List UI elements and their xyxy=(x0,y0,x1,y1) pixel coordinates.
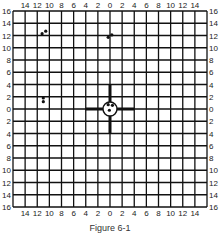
shot-group xyxy=(42,96,45,103)
top-axis-label: 6 xyxy=(71,1,76,10)
right-axis-label: 12 xyxy=(209,32,218,41)
right-axis-label: 8 xyxy=(209,154,214,163)
bottom-axis-label: 2 xyxy=(96,209,101,218)
top-axis-label: 4 xyxy=(132,1,137,10)
shot-hole-dot xyxy=(110,33,113,36)
bottom-axis-label: 12 xyxy=(33,209,42,218)
left-axis-label: 10 xyxy=(2,166,11,175)
right-axis-label: 10 xyxy=(209,44,218,53)
bottom-axis-label: 8 xyxy=(59,209,64,218)
bottom-axis-label: 0 xyxy=(108,209,113,218)
top-axis-label: 14 xyxy=(21,1,30,10)
shot-hole-dot xyxy=(107,103,110,106)
left-axis-label: 6 xyxy=(7,142,12,151)
bottom-axis-label: 8 xyxy=(156,209,161,218)
right-axis-label: 2 xyxy=(209,93,214,102)
left-axis-label: 2 xyxy=(7,117,12,126)
bottom-axis-label: 14 xyxy=(190,209,199,218)
left-axis-label: 4 xyxy=(7,81,12,90)
left-axis-label: 2 xyxy=(7,93,12,102)
bottom-axis-label: 4 xyxy=(84,209,89,218)
left-axis-label: 0 xyxy=(7,105,12,114)
top-axis-label: 10 xyxy=(166,1,175,10)
right-axis-label: 8 xyxy=(209,56,214,65)
shot-hole-dot xyxy=(111,104,114,107)
top-axis-label: 12 xyxy=(178,1,187,10)
shot-hole-dot xyxy=(41,32,44,35)
top-axis-label: 12 xyxy=(33,1,42,10)
figure-caption: Figure 6-1 xyxy=(89,223,130,233)
bottom-axis-label: 10 xyxy=(45,209,54,218)
shot-hole-dot xyxy=(108,109,111,112)
shot-groups xyxy=(41,30,115,112)
shot-hole-dot xyxy=(42,100,45,103)
right-axis-label: 2 xyxy=(209,117,214,126)
top-axis-label: 14 xyxy=(190,1,199,10)
right-axis-label: 4 xyxy=(209,81,214,90)
right-axis-label: 14 xyxy=(209,19,218,28)
bottom-axis-label: 12 xyxy=(178,209,187,218)
shot-hole-dot xyxy=(107,36,110,39)
left-axis-label: 14 xyxy=(2,191,11,200)
right-axis-label: 0 xyxy=(209,105,214,114)
left-axis-label: 8 xyxy=(7,154,12,163)
top-axis-label: 2 xyxy=(120,1,125,10)
left-axis-label: 12 xyxy=(2,179,11,188)
top-axis-label: 6 xyxy=(144,1,149,10)
zeroing-target-figure: 1412108642024681012141412108642024681012… xyxy=(0,0,220,234)
left-axis-label: 16 xyxy=(2,7,11,16)
left-axis-label: 16 xyxy=(2,203,11,212)
shot-group xyxy=(41,30,48,36)
top-axis-label: 8 xyxy=(59,1,64,10)
left-axis-label: 4 xyxy=(7,130,12,139)
right-axis-label: 4 xyxy=(209,130,214,139)
top-axis-label: 10 xyxy=(45,1,54,10)
shot-hole-dot xyxy=(44,30,47,33)
right-axis-label: 6 xyxy=(209,68,214,77)
right-axis-label: 10 xyxy=(209,166,218,175)
right-axis-label: 12 xyxy=(209,179,218,188)
top-axis-label: 4 xyxy=(84,1,89,10)
shot-hole-dot xyxy=(42,96,45,99)
right-axis-label: 16 xyxy=(209,7,218,16)
left-axis-label: 8 xyxy=(7,56,12,65)
bottom-axis-label: 6 xyxy=(71,209,76,218)
right-axis-label: 14 xyxy=(209,191,218,200)
top-axis-label: 0 xyxy=(108,1,113,10)
top-axis-label: 8 xyxy=(156,1,161,10)
bottom-axis-label: 6 xyxy=(144,209,149,218)
left-axis-label: 10 xyxy=(2,44,11,53)
right-axis-label: 6 xyxy=(209,142,214,151)
right-axis-label: 16 xyxy=(209,203,218,212)
bottom-axis-label: 2 xyxy=(120,209,125,218)
top-axis-label: 2 xyxy=(96,1,101,10)
left-axis-label: 6 xyxy=(7,68,12,77)
bottom-axis-label: 14 xyxy=(21,209,30,218)
left-axis-label: 14 xyxy=(2,19,11,28)
left-axis-label: 12 xyxy=(2,32,11,41)
bottom-axis-label: 4 xyxy=(132,209,137,218)
bottom-axis-label: 10 xyxy=(166,209,175,218)
